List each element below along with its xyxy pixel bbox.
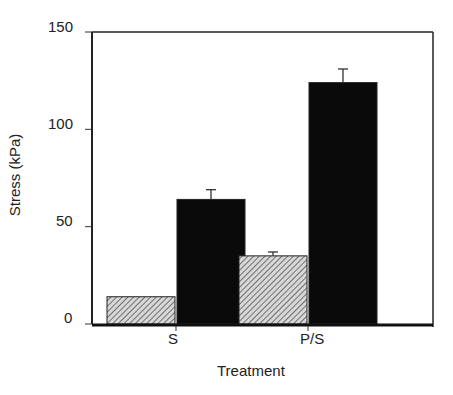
bar-hatched-s: [107, 297, 175, 324]
y-axis-label: Stress (kPa): [6, 134, 23, 217]
y-tick-label-50: 50: [56, 212, 73, 229]
category-label-s: S: [168, 330, 178, 347]
y-tick-label-0: 0: [64, 309, 72, 326]
x-axis-label: Treatment: [217, 362, 285, 379]
y-tick-label-100: 100: [48, 115, 73, 132]
bar-solid-s: [177, 199, 245, 324]
bar-solid-ps: [309, 83, 377, 324]
bar-hatched-ps: [239, 256, 307, 324]
category-label-ps: P/S: [300, 330, 324, 347]
bar-chart: [0, 0, 453, 395]
bars-group: [107, 69, 377, 324]
y-tick-label-150: 150: [48, 18, 73, 35]
